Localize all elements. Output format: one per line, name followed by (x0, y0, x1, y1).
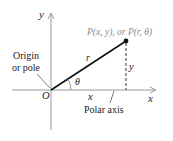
point-label: P(x, y), or P(r, θ) (86, 27, 152, 38)
height-label: y (128, 61, 134, 72)
origin-label-line2: or pole (12, 62, 41, 73)
point-p (124, 39, 129, 44)
angle-label: θ (75, 76, 80, 87)
origin-label-line1: Origin (13, 50, 39, 61)
y-axis-label: y (38, 8, 44, 20)
origin-o-label: O (42, 90, 50, 101)
radius-segment (51, 41, 126, 90)
angle-arc (68, 79, 71, 90)
base-x-label: x (87, 91, 93, 102)
x-axis-label: x (147, 92, 153, 104)
radius-label: r (86, 52, 90, 63)
polar-axis-label: Polar axis (84, 104, 124, 115)
origin-leader-line (37, 74, 50, 88)
polar-diagram: y x P(x, y), or P(r, θ) Origin or pole O… (0, 0, 173, 141)
polar-axis-leader-line (110, 91, 114, 103)
